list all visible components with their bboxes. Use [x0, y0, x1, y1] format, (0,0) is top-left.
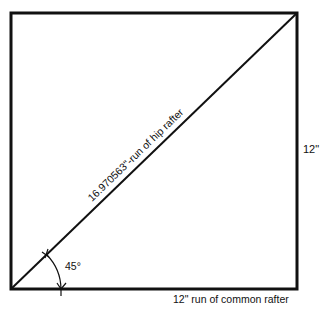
- hip-rafter-diagonal: [11, 13, 297, 289]
- common-rafter-run-label: 12" run of common rafter: [173, 293, 289, 305]
- angle-arc: [47, 255, 61, 289]
- hip-rafter-run-label: 16.970563"-run of hip rafter: [85, 105, 186, 203]
- angle-label: 45°: [65, 260, 81, 272]
- right-side-label: 12": [303, 143, 319, 155]
- hip-rafter-diagram: 16.970563"-run of hip rafter 45° 12" 12"…: [0, 0, 328, 312]
